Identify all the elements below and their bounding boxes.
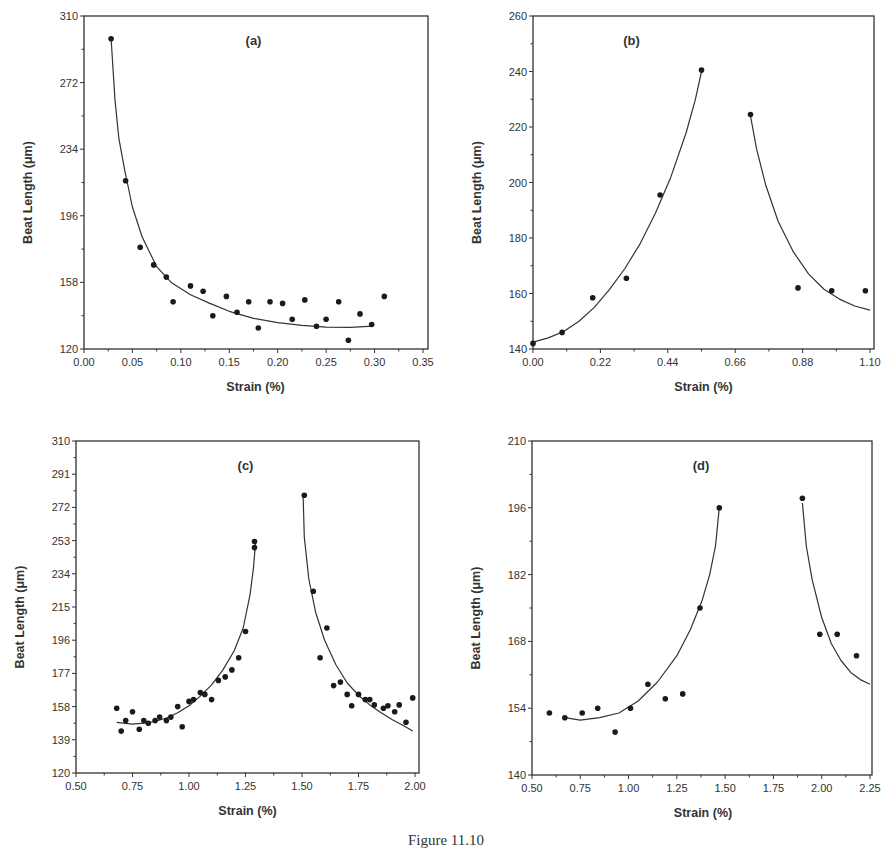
x-tick-label: 0.35 [412, 356, 433, 368]
x-tick-label: 0.22 [590, 356, 611, 368]
data-point [252, 545, 258, 551]
y-tick-label: 182 [508, 569, 526, 581]
data-point [179, 724, 185, 730]
x-tick-label: 0.10 [170, 356, 191, 368]
panel-c: 0.500.751.001.251.501.752.00120139158177… [13, 435, 426, 818]
data-point [385, 703, 391, 709]
data-point [336, 299, 342, 305]
data-point [191, 697, 197, 703]
data-point [579, 710, 585, 716]
y-tick-label: 139 [52, 734, 70, 746]
x-axis-title: Strain (%) [674, 806, 732, 820]
data-point [697, 605, 703, 611]
x-tick-label: 2.00 [811, 782, 832, 794]
data-point [114, 706, 120, 712]
x-tick-label: 1.50 [714, 782, 735, 794]
data-point [130, 709, 136, 715]
y-tick-label: 196 [52, 634, 70, 646]
data-point [314, 323, 320, 329]
data-point [246, 299, 252, 305]
y-tick-label: 140 [508, 769, 526, 781]
x-tick-label: 0.50 [521, 782, 542, 794]
y-tick-label: 120 [60, 343, 78, 355]
data-point [168, 714, 174, 720]
data-point [372, 702, 378, 708]
x-tick-label: 0.50 [65, 780, 86, 792]
data-point [680, 691, 686, 697]
data-point [224, 294, 230, 300]
y-tick-label: 196 [508, 502, 526, 514]
data-point [164, 274, 170, 280]
x-tick-label: 1.00 [178, 780, 199, 792]
data-point [645, 682, 651, 688]
data-point [234, 309, 240, 315]
y-tick-label: 240 [509, 66, 527, 78]
data-point [137, 727, 143, 733]
x-tick-label: 0.30 [364, 356, 385, 368]
data-point [323, 316, 329, 322]
x-tick-label: 1.00 [618, 782, 639, 794]
data-point [530, 341, 536, 347]
data-point [252, 539, 258, 545]
x-tick-label: 0.20 [267, 356, 288, 368]
data-point [356, 692, 362, 698]
data-point [229, 667, 235, 673]
x-tick-label: 0.88 [792, 356, 813, 368]
data-point [595, 705, 601, 711]
data-point [302, 297, 308, 303]
panel-label: (b) [623, 33, 640, 48]
y-tick-label: 272 [60, 77, 78, 89]
data-point [202, 692, 208, 698]
data-point [157, 714, 163, 720]
data-point [302, 492, 308, 498]
data-point [403, 720, 409, 726]
x-tick-label: 0.75 [122, 780, 143, 792]
y-tick-label: 196 [60, 210, 78, 222]
data-point [800, 496, 806, 502]
plot-frame [533, 16, 874, 349]
y-tick-label: 120 [52, 767, 70, 779]
data-point [137, 245, 143, 251]
data-point [590, 295, 596, 301]
x-axis-title: Strain (%) [674, 380, 732, 394]
panel-a: 0.000.050.100.150.200.250.300.3512015819… [21, 10, 434, 394]
figure-11-10: 0.000.050.100.150.200.250.300.3512015819… [0, 0, 892, 849]
x-tick-label: 1.75 [348, 780, 369, 792]
figure-caption: Figure 11.10 [0, 832, 892, 849]
data-point [367, 697, 373, 703]
x-tick-label: 0.66 [724, 356, 745, 368]
y-tick-label: 234 [52, 568, 70, 580]
x-tick-label: 0.00 [73, 356, 94, 368]
x-axis-title: Strain (%) [226, 380, 284, 394]
data-point [717, 505, 723, 511]
y-tick-label: 140 [509, 343, 527, 355]
data-point [829, 288, 835, 294]
x-tick-label: 0.15 [219, 356, 240, 368]
y-tick-label: 220 [509, 121, 527, 133]
fit-curve [111, 39, 373, 328]
y-tick-label: 253 [52, 535, 70, 547]
data-point [210, 313, 216, 319]
data-point [854, 653, 860, 659]
x-tick-label: 2.25 [859, 782, 880, 794]
x-axis-title: Strain (%) [218, 804, 276, 818]
fit-curve [117, 541, 256, 725]
y-tick-label: 210 [508, 435, 526, 447]
data-point [200, 288, 206, 294]
y-tick-label: 215 [52, 601, 70, 613]
data-point [663, 696, 669, 702]
data-point [236, 655, 242, 661]
data-point [346, 337, 352, 343]
data-point [146, 720, 152, 726]
y-axis-title: Beat Length (μm) [470, 141, 484, 244]
x-tick-label: 1.50 [291, 780, 312, 792]
data-point [628, 705, 634, 711]
data-point [188, 283, 194, 289]
data-point [612, 729, 618, 735]
x-tick-label: 1.75 [763, 782, 784, 794]
data-point [175, 704, 181, 710]
plot-frame [84, 16, 428, 349]
x-tick-label: 2.00 [404, 780, 425, 792]
data-point [349, 703, 355, 709]
data-point [317, 655, 323, 661]
